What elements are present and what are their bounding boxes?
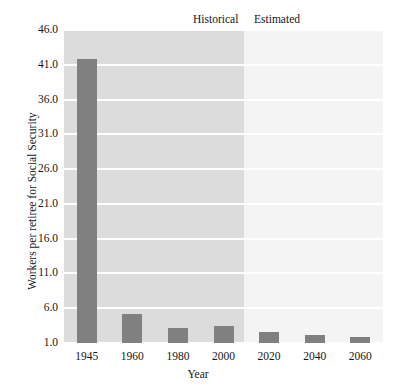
bar xyxy=(214,326,234,343)
gridline xyxy=(64,238,383,240)
gridline xyxy=(64,272,383,274)
y-tick-label: 6.0 xyxy=(4,302,58,314)
bar xyxy=(168,328,188,343)
estimated-region-label: Estimated xyxy=(254,13,300,25)
x-axis-title: Year xyxy=(0,368,396,380)
gridline xyxy=(64,168,383,170)
bar-chart: Historical Estimated 1.06.011.016.021.02… xyxy=(0,0,396,391)
bar xyxy=(122,314,142,343)
bar xyxy=(305,335,325,343)
bar xyxy=(259,332,279,343)
y-tick-label: 41.0 xyxy=(4,59,58,71)
estimated-band xyxy=(244,30,383,343)
gridline xyxy=(64,99,383,101)
y-tick-label: 46.0 xyxy=(4,24,58,36)
gridline xyxy=(64,133,383,135)
gridline xyxy=(64,30,383,31)
gridline xyxy=(64,307,383,309)
y-tick-label: 1.0 xyxy=(4,337,58,349)
historical-region-label: Historical xyxy=(193,13,238,25)
gridline xyxy=(64,203,383,205)
y-tick-label: 36.0 xyxy=(4,94,58,106)
gridline xyxy=(64,64,383,66)
y-axis-title: Workers per retiree for Social Security xyxy=(26,112,38,290)
plot-area xyxy=(64,30,383,343)
bar xyxy=(350,337,370,343)
bar xyxy=(77,59,97,343)
x-tick-label: 2060 xyxy=(330,351,390,363)
